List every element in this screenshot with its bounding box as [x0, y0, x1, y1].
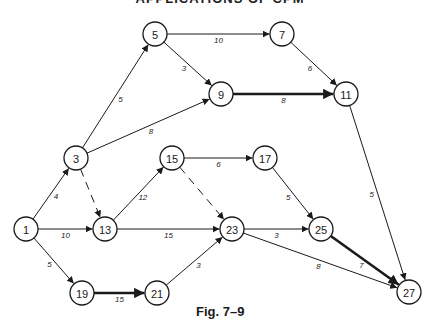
edge-duration-label: 6 [308, 64, 313, 73]
edge-line [33, 168, 69, 219]
event-node-19: 19 [70, 281, 94, 305]
edge-3-to-13 [81, 169, 101, 217]
edge-line [291, 42, 337, 85]
node-label: 21 [151, 288, 163, 300]
edge-line [164, 42, 212, 86]
edge-duration-label: 10 [214, 36, 223, 45]
edge-1-to-3: 4 [33, 168, 69, 219]
event-node-17: 17 [253, 146, 277, 170]
node-label: 11 [340, 89, 351, 101]
event-node-23: 23 [220, 217, 244, 241]
edge-1-to-13: 10 [38, 229, 93, 240]
edge-duration-label: 4 [54, 192, 59, 201]
event-node-27: 27 [397, 280, 421, 304]
event-node-9: 9 [209, 82, 233, 106]
event-node-15: 15 [160, 146, 184, 170]
event-node-5: 5 [143, 22, 167, 46]
event-node-3: 3 [64, 146, 88, 170]
event-node-13: 13 [93, 217, 117, 241]
node-label: 3 [73, 153, 79, 165]
edge-21-to-23: 3 [166, 237, 222, 285]
edge-15-to-23 [180, 167, 224, 219]
edge-duration-label: 15 [115, 295, 124, 304]
edge-line [34, 238, 74, 284]
edge-13-to-15: 12 [113, 167, 163, 220]
edge-duration-label: 3 [182, 64, 187, 73]
edge-7-to-11: 6 [291, 42, 337, 85]
edge-5-to-9: 3 [164, 42, 212, 86]
edge-3-to-5: 5 [82, 45, 148, 148]
node-label: 17 [259, 153, 271, 165]
event-node-21: 21 [145, 281, 169, 305]
node-label: 1 [23, 224, 29, 236]
edge-duration-label: 7 [359, 261, 364, 270]
edge-23-to-25: 3 [244, 229, 309, 240]
edge-line [166, 237, 222, 285]
event-node-25: 25 [309, 217, 333, 241]
node-label: 7 [279, 29, 285, 41]
edge-duration-label: 15 [164, 231, 173, 240]
edge-duration-label: 8 [281, 96, 286, 105]
node-label: 15 [166, 153, 178, 165]
edge-3-to-9: 8 [87, 99, 210, 153]
event-node-7: 7 [270, 22, 294, 46]
edge-duration-label: 3 [274, 231, 279, 240]
node-label: 23 [226, 224, 238, 236]
node-label: 5 [152, 29, 158, 41]
edge-line [180, 167, 224, 219]
node-label: 25 [315, 224, 327, 236]
node-label: 19 [76, 288, 88, 300]
edge-layer: 410558103685121565153387 [33, 34, 405, 304]
edge-19-to-21: 15 [94, 293, 145, 304]
edge-duration-label: 8 [149, 127, 154, 136]
edge-line [81, 169, 101, 217]
figure-caption: Fig. 7–9 [196, 304, 244, 319]
edge-15-to-17: 6 [184, 158, 253, 169]
event-node-11: 11 [334, 82, 358, 106]
edge-duration-label: 5 [370, 190, 375, 199]
edge-line [331, 236, 399, 285]
edge-line [272, 167, 313, 219]
edge-duration-label: 6 [216, 160, 221, 169]
edge-25-to-27: 7 [331, 236, 399, 285]
node-label: 13 [99, 224, 111, 236]
edge-5-to-7: 10 [167, 34, 270, 45]
node-label: 9 [218, 89, 224, 101]
node-label: 27 [403, 287, 415, 299]
edge-duration-label: 5 [286, 193, 291, 202]
edge-13-to-23: 15 [117, 229, 220, 240]
edge-17-to-25: 5 [272, 167, 313, 219]
edge-duration-label: 5 [118, 95, 123, 104]
edge-duration-label: 3 [196, 261, 201, 270]
edge-duration-label: 10 [61, 231, 70, 240]
edge-9-to-11: 8 [233, 94, 334, 105]
event-node-1: 1 [14, 217, 38, 241]
cpm-network-diagram: 410558103685121565153387 135791113151719… [0, 0, 440, 332]
edge-duration-label: 8 [316, 262, 321, 271]
edge-1-to-19: 5 [34, 238, 74, 284]
edge-line [82, 45, 148, 148]
edge-duration-label: 12 [138, 193, 147, 202]
edge-duration-label: 5 [47, 260, 52, 269]
